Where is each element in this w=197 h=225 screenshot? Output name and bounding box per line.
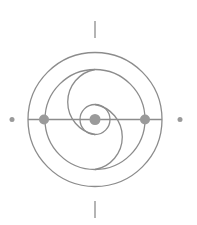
diagram-canvas: Concentric circles with spiral arcs symb… bbox=[0, 0, 197, 225]
left-node-dot bbox=[39, 115, 49, 125]
center-node-dot bbox=[90, 114, 101, 125]
spiral-symbol-svg bbox=[0, 0, 197, 225]
right-node-dot bbox=[140, 115, 150, 125]
left-marker-dot bbox=[10, 117, 15, 122]
right-marker-dot bbox=[178, 117, 183, 122]
